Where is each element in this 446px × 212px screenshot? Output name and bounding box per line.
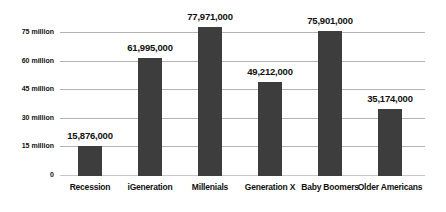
gridline-75-million — [60, 32, 425, 33]
bar-older-americans — [378, 109, 402, 176]
bar-value-label-generation-x: 49,212,000 — [225, 67, 315, 77]
y-axis-tick-label: 15 million — [0, 142, 54, 150]
y-axis-tick-label: 60 million — [0, 57, 54, 65]
bar-baby-boomers — [318, 31, 342, 176]
axis-baseline — [60, 175, 425, 176]
y-axis-tick-label: 45 million — [0, 85, 54, 93]
bar-value-label-baby-boomers: 75,901,000 — [285, 16, 375, 26]
bar-generation-x — [258, 82, 282, 176]
bar-value-label-igeneration: 61,995,000 — [105, 43, 195, 53]
bar-recession — [78, 146, 102, 176]
bar-millenials — [198, 27, 222, 176]
y-axis-tick-label: 75 million — [0, 28, 54, 36]
gridline-15-million — [60, 146, 425, 147]
y-axis-tick-label: 0 — [0, 171, 54, 179]
bar-value-label-millenials: 77,971,000 — [165, 12, 255, 22]
y-axis-tick-labels: 75 million 60 million 45 million 30 mill… — [0, 24, 54, 176]
bar-igeneration — [138, 58, 162, 176]
x-axis-category-older-americans: Older Americans — [345, 182, 435, 192]
bar-chart: 75 million 60 million 45 million 30 mill… — [0, 0, 446, 212]
bar-value-label-recession: 15,876,000 — [45, 131, 135, 141]
y-axis-tick-label: 30 million — [0, 114, 54, 122]
gridline-45-million — [60, 89, 425, 90]
gridline-60-million — [60, 61, 425, 62]
bar-value-label-older-americans: 35,174,000 — [345, 94, 435, 104]
gridline-30-million — [60, 118, 425, 119]
